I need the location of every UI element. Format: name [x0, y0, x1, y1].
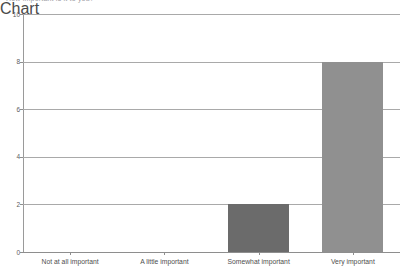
x-tick-mark: [164, 252, 165, 255]
y-tick-label-10: 10: [0, 11, 20, 18]
x-tick-label: A little important: [140, 257, 188, 266]
bar[interactable]: [322, 62, 383, 252]
y-tick-mark-6: [20, 109, 23, 110]
bar-slot: [134, 14, 195, 252]
y-tick-mark-0: [20, 252, 23, 253]
chart-title-clipped: How important is it to you?: [6, 0, 94, 3]
x-tick-mark: [70, 252, 71, 255]
x-axis: Not at all importantA little importantSo…: [23, 252, 400, 271]
y-tick-mark-10: [20, 14, 23, 15]
y-tick-label-2: 2: [0, 201, 20, 208]
y-tick-label-0: 0: [0, 249, 20, 256]
bar-series: [23, 14, 400, 252]
y-tick-label-6: 6: [0, 106, 20, 113]
bar-slot: [228, 14, 289, 252]
x-tick-label: Not at all important: [42, 257, 99, 266]
y-tick-label-8: 8: [0, 58, 20, 65]
y-tick-mark-8: [20, 62, 23, 63]
bar-slot: [39, 14, 100, 252]
y-tick-mark-2: [20, 204, 23, 205]
x-tick-label: Very important: [331, 257, 375, 266]
y-tick-label-4: 4: [0, 153, 20, 160]
bar[interactable]: [228, 204, 289, 252]
bar-chart: How important is it to you? Not at all i…: [0, 0, 410, 271]
y-tick-mark-4: [20, 157, 23, 158]
x-tick-label: Somewhat important: [227, 257, 289, 266]
x-tick-mark: [353, 252, 354, 255]
x-tick-mark: [259, 252, 260, 255]
bar-slot: [322, 14, 383, 252]
